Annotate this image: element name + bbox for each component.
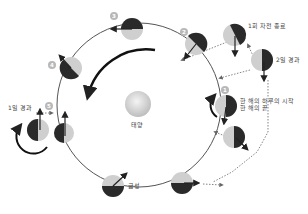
revolution-arrow: [88, 49, 155, 96]
marker-4: 4: [48, 61, 56, 69]
sun-label: 태양: [131, 121, 143, 128]
day-start-label: 한 해의 하루의 시작: [240, 97, 294, 104]
marker-2: 2: [180, 28, 188, 36]
venus-position-5-outer: [16, 110, 49, 154]
venus-label: 금성: [128, 182, 140, 189]
venus-position-5: [54, 113, 74, 143]
venus-position-bottom-right: [171, 172, 198, 194]
venus-side-rotation-complete: [223, 24, 246, 55]
venus-orbit-diagram: 1 2 3 4 5 태양 금성 1회 자전 종료 2일 경과 한 해의 하루의 …: [0, 0, 308, 214]
venus-position-1: [211, 95, 237, 123]
year-end-label: 한 해의 끝: [240, 104, 268, 111]
venus-side-bottom: [223, 126, 247, 149]
rotation-complete-label: 1회 자전 종료: [248, 22, 286, 29]
sun-icon: [125, 91, 151, 117]
marker-5: 5: [45, 102, 53, 110]
venus-position-3: [112, 18, 143, 40]
one-day-label: 1일 경과: [8, 104, 32, 111]
venus-position-bottom-left: [102, 174, 126, 197]
venus-side-two-days: [251, 49, 273, 80]
marker-3: 3: [110, 12, 118, 20]
two-days-label: 2일 경과: [276, 56, 300, 63]
marker-1: 1: [221, 86, 229, 94]
venus-position-4: [60, 56, 82, 79]
